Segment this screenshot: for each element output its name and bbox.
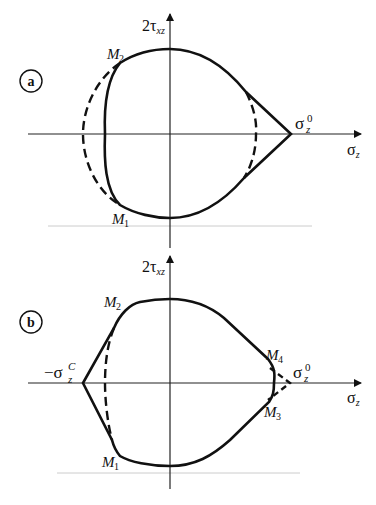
svg-text:0: 0 (307, 112, 313, 124)
svg-text:a: a (28, 74, 35, 89)
point-label-m1: M 1 (111, 211, 129, 229)
svg-text:0: 0 (305, 361, 311, 373)
panel-tag-a: a (20, 70, 42, 92)
svg-text:b: b (27, 315, 35, 330)
left-tip-label-minus-sigma-zc: −σ z C (44, 360, 76, 385)
point-label-m2: M 2 (106, 46, 124, 64)
svg-text:−σ: −σ (44, 363, 63, 382)
y-axis-label: 2τxz (142, 258, 165, 277)
tip-label-sigma-z0: σ z 0 (295, 112, 313, 135)
point-label-m1: M 1 (101, 454, 119, 472)
point-label-m2: M 2 (103, 294, 121, 312)
panel-tag-b: b (20, 311, 42, 333)
panel-b: b 2τxz σz σ z 0 −σ z C M 2 M 1 M 4 M 3 (20, 256, 361, 489)
stress-diagram: a 2τxz σz σ z 0 M 2 M 1 b (0, 0, 376, 505)
tip-label-sigma-z0: σ z 0 (293, 361, 311, 384)
svg-text:2: 2 (119, 53, 124, 64)
svg-text:z: z (303, 372, 309, 384)
x-axis-label: σz (347, 389, 360, 408)
svg-text:2: 2 (116, 301, 121, 312)
svg-text:z: z (67, 373, 73, 385)
point-label-m4: M 4 (265, 347, 283, 365)
svg-text:1: 1 (124, 218, 129, 229)
svg-text:4: 4 (278, 354, 283, 365)
dashed-arc-right (244, 92, 256, 178)
y-axis-label: 2τxz (142, 17, 165, 36)
svg-text:3: 3 (276, 411, 281, 422)
point-label-m3: M 3 (263, 404, 281, 422)
svg-text:σ: σ (295, 114, 304, 133)
svg-text:σ: σ (293, 363, 302, 382)
svg-text:1: 1 (114, 461, 119, 472)
svg-text:C: C (68, 360, 76, 372)
x-axis-label: σz (347, 141, 360, 160)
panel-a: a 2τxz σz σ z 0 M 2 M 1 (20, 14, 361, 248)
svg-text:z: z (305, 123, 311, 135)
dashed-line-left (105, 328, 114, 440)
